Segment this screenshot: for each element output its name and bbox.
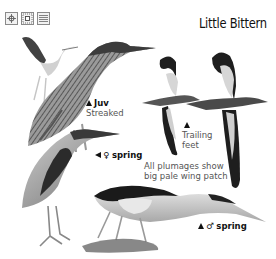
bird-male-spring bbox=[82, 186, 266, 253]
label-female-spring: ♀ spring bbox=[95, 150, 142, 160]
up-triangle-icon bbox=[184, 122, 190, 128]
up-triangle-icon bbox=[86, 100, 92, 106]
left-triangle-icon bbox=[95, 152, 101, 158]
female-symbol: ♀ bbox=[103, 150, 109, 160]
label-juv: Juv Streaked bbox=[86, 98, 124, 118]
bird-female-spring bbox=[22, 129, 120, 246]
label-wing-note: All plumages show big pale wing patch bbox=[144, 161, 228, 181]
label-trailing-feet: Trailing feet bbox=[182, 122, 213, 150]
label-male-spring: ♂ spring bbox=[198, 221, 247, 231]
male-symbol: ♂ bbox=[206, 221, 214, 231]
up-triangle-icon bbox=[198, 223, 204, 229]
